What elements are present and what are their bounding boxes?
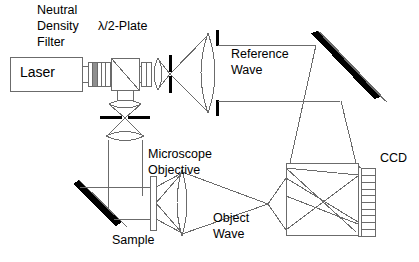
- neutral-density-filter: [88, 62, 105, 86]
- compensator-plate-a: [141, 62, 146, 86]
- ccd-label: CCD: [380, 152, 407, 166]
- laser-label: Laser: [20, 66, 55, 80]
- half-wave-plate-label: λ/2-Plate: [98, 20, 147, 34]
- object-wave-label-line2: Wave: [213, 228, 245, 242]
- beam-splitter-cube: [111, 58, 139, 90]
- reference-wave-label-line1: Reference: [231, 48, 289, 62]
- figure-canvas: Neutral Density Filter λ/2-Plate Laser R…: [0, 0, 419, 262]
- sample-label: Sample: [112, 234, 154, 248]
- object-beam-collimated-vertical: [108, 140, 142, 213]
- sample-plate: [150, 176, 156, 230]
- collimating-lens-object: [106, 132, 144, 141]
- microscope-objective: [177, 170, 187, 236]
- nd-filter-label-line1: Neutral: [37, 4, 77, 18]
- half-wave-plate: [105, 62, 110, 86]
- focusing-lens-object: [109, 100, 141, 108]
- microscope-objective-label-line2: Objective: [148, 164, 200, 178]
- reference-wave-label-line2: Wave: [231, 64, 263, 78]
- laser-output-snout: [82, 66, 88, 82]
- ccd-sensor: [361, 168, 375, 236]
- compensator-plate-b: [146, 62, 151, 86]
- aperture-stop-reference: [216, 30, 219, 116]
- collimating-lens-reference: [201, 33, 215, 113]
- beam-combiner-cube: [286, 163, 358, 235]
- object-wave-label-line1: Object: [213, 212, 249, 226]
- nd-filter-label-line2: Density: [37, 20, 79, 34]
- mirror-reference-top-right: [311, 31, 387, 102]
- microscope-objective-label-line1: Microscope: [148, 148, 212, 162]
- nd-filter-label-line3: Filter: [37, 36, 65, 50]
